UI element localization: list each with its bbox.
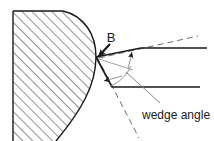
diagram-canvas: B wedge angle [0, 0, 214, 141]
diagram-root: B wedge angle [0, 0, 214, 141]
wedge-angle-label: wedge angle [141, 108, 210, 122]
callout-b-label: B [107, 30, 116, 45]
